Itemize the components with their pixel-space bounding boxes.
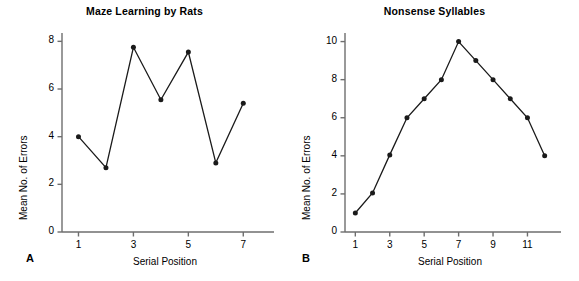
ytick-label: 6 [311,111,337,122]
xtick-label: 11 [515,239,539,250]
panel-b-xaxis-label: Serial Position [345,256,555,267]
chart-panel-b: Nonsense Syllables B Serial Position Mea… [290,0,579,281]
ytick-label: 10 [311,35,337,46]
figure-container: Maze Learning by Rats A Serial Position … [0,0,579,281]
ytick-label: 0 [311,225,337,236]
ytick-label: 0 [28,225,54,236]
ytick-label: 4 [311,149,337,160]
xtick-label: 3 [378,239,402,250]
ytick-label: 4 [28,130,54,141]
xtick-label: 7 [447,239,471,250]
xtick-label: 3 [121,239,145,250]
xtick-label: 7 [231,239,255,250]
panel-a-xaxis-label: Serial Position [62,256,268,267]
ytick-label: 2 [28,177,54,188]
ytick-label: 8 [311,73,337,84]
chart-panel-a: Maze Learning by Rats A Serial Position … [0,0,289,281]
ytick-label: 2 [311,187,337,198]
xtick-label: 5 [412,239,436,250]
ytick-label: 6 [28,82,54,93]
xtick-label: 1 [343,239,367,250]
xtick-label: 5 [176,239,200,250]
xtick-label: 1 [66,239,90,250]
xtick-label: 9 [481,239,505,250]
ytick-label: 8 [28,34,54,45]
